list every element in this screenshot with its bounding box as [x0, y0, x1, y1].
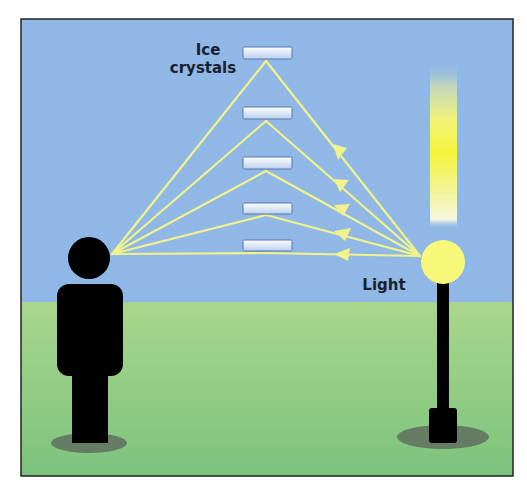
person-body	[57, 284, 123, 376]
ice-crystal-plate-icon	[243, 240, 292, 251]
ice-crystals-label-line1: Ice	[196, 41, 221, 59]
ice-crystal-plate-icon	[243, 47, 292, 59]
lamp-base	[429, 408, 457, 443]
lamp-pole	[437, 280, 449, 412]
light-pillar-icon	[430, 60, 457, 228]
person-legs	[72, 366, 108, 443]
ice-crystal-plate-icon	[243, 107, 292, 119]
lamp-globe	[421, 240, 465, 284]
ray-to-eye-5	[112, 253, 266, 254]
ice-crystal-plate-icon	[243, 157, 292, 169]
light-label: Light	[362, 276, 405, 294]
person-head	[68, 237, 110, 279]
ice-crystals-label-line2: crystals	[170, 59, 236, 77]
light-pillar-diagram: Ice crystals Light	[0, 0, 527, 494]
ice-crystal-plate-icon	[243, 203, 292, 214]
